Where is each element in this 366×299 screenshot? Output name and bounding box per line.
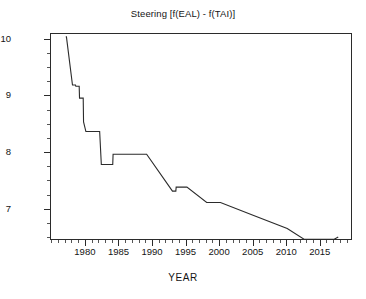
chart-title: Steering [f(EAL) - f(TAI)] bbox=[0, 8, 366, 19]
x-tick-minor bbox=[165, 240, 166, 243]
x-tick-minor bbox=[340, 240, 341, 243]
y-tick-label: 10 bbox=[0, 33, 11, 44]
x-tick-minor bbox=[51, 240, 52, 243]
y-tick-label: 8 bbox=[0, 146, 11, 157]
x-tick-minor bbox=[92, 240, 93, 243]
x-tick-minor bbox=[226, 240, 227, 243]
data-series-svg bbox=[51, 34, 353, 241]
x-tick-minor bbox=[159, 240, 160, 243]
x-tick-minor bbox=[105, 240, 106, 243]
x-tick-minor bbox=[78, 240, 79, 243]
x-tick-minor bbox=[233, 240, 234, 243]
x-tick-minor bbox=[293, 240, 294, 243]
y-tick-label: 9 bbox=[0, 89, 11, 100]
x-tick-minor bbox=[98, 240, 99, 243]
x-tick-minor bbox=[192, 240, 193, 243]
x-tick-minor bbox=[71, 240, 72, 243]
x-tick-minor bbox=[199, 240, 200, 243]
x-tick-minor bbox=[273, 240, 274, 243]
x-tick-minor bbox=[280, 240, 281, 243]
y-tick-label: 7 bbox=[0, 203, 11, 214]
x-tick-minor bbox=[125, 240, 126, 243]
chart-figure: Steering [f(EAL) - f(TAI)] f(EAL) - f(TA… bbox=[0, 0, 366, 299]
x-tick-minor bbox=[206, 240, 207, 243]
x-tick-minor bbox=[58, 240, 59, 243]
x-tick-minor bbox=[212, 240, 213, 243]
x-tick-minor bbox=[246, 240, 247, 243]
x-axis-title: YEAR bbox=[0, 272, 366, 283]
x-tick-minor bbox=[139, 240, 140, 243]
x-tick-minor bbox=[313, 240, 314, 243]
x-tick-minor bbox=[333, 240, 334, 243]
data-line-series-0 bbox=[66, 37, 338, 239]
x-tick-minor bbox=[300, 240, 301, 243]
x-tick-minor bbox=[306, 240, 307, 243]
plot-area bbox=[50, 33, 352, 240]
x-tick-minor bbox=[326, 240, 327, 243]
x-tick-minor bbox=[65, 240, 66, 243]
x-tick-minor bbox=[132, 240, 133, 243]
x-tick-minor bbox=[347, 240, 348, 243]
x-tick-minor bbox=[239, 240, 240, 243]
x-tick-minor bbox=[172, 240, 173, 243]
x-tick-minor bbox=[145, 240, 146, 243]
x-tick-minor bbox=[179, 240, 180, 243]
x-tick-minor bbox=[112, 240, 113, 243]
x-tick-label: 2015 bbox=[300, 246, 340, 257]
x-tick-minor bbox=[266, 240, 267, 243]
x-tick-minor bbox=[259, 240, 260, 243]
